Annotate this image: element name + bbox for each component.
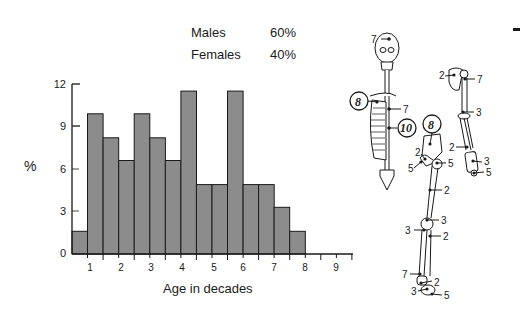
svg-text:7: 7 — [477, 74, 483, 85]
skeleton-axial-illustration — [370, 33, 399, 190]
svg-text:2: 2 — [449, 142, 455, 153]
histogram-bar — [72, 231, 88, 254]
svg-text:3: 3 — [484, 156, 490, 167]
histogram-bar — [150, 138, 166, 254]
svg-text:2: 2 — [434, 277, 440, 288]
histogram-bar — [274, 207, 290, 254]
svg-text:3: 3 — [476, 107, 482, 118]
svg-text:8: 8 — [355, 95, 361, 109]
svg-text:5: 5 — [444, 290, 450, 301]
histogram-bar — [212, 185, 228, 254]
histogram-bar — [181, 91, 197, 254]
svg-text:3: 3 — [405, 225, 411, 236]
histogram-bar — [196, 185, 212, 254]
histogram-bar — [134, 114, 150, 254]
histogram-bar — [165, 161, 181, 255]
svg-text:5: 5 — [448, 158, 454, 169]
svg-text:3: 3 — [411, 286, 417, 297]
histogram-plot: 7 8 7 10 8 2 5 5 — [0, 0, 520, 319]
svg-text:7: 7 — [402, 269, 408, 280]
svg-text:5: 5 — [408, 163, 414, 174]
histogram-bars — [72, 91, 305, 254]
svg-text:5: 5 — [486, 167, 492, 178]
svg-text:8: 8 — [428, 118, 434, 132]
histogram-bar — [103, 138, 119, 254]
histogram-bar — [259, 185, 275, 254]
histogram-bar — [119, 161, 135, 255]
svg-text:10: 10 — [400, 121, 412, 135]
svg-text:7: 7 — [403, 104, 409, 115]
histogram-bar — [88, 114, 104, 254]
edge-mark — [513, 28, 520, 31]
svg-text:2: 2 — [415, 147, 421, 158]
histogram-bar — [290, 231, 306, 254]
svg-text:2: 2 — [439, 70, 445, 81]
skeleton-leg-illustration — [417, 134, 442, 295]
histogram-bar — [228, 91, 244, 254]
svg-text:2: 2 — [443, 231, 449, 242]
svg-text:7: 7 — [371, 34, 377, 45]
svg-text:3: 3 — [441, 215, 447, 226]
svg-text:2: 2 — [444, 185, 450, 196]
histogram-bar — [243, 185, 259, 254]
